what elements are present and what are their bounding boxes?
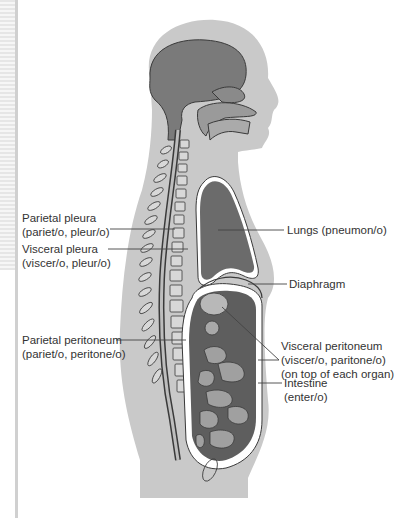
label-line: (viscer/o, pleur/o) (22, 256, 111, 270)
label-lungs: Lungs (pneumon/o) (287, 223, 387, 237)
label-visceral-peritoneum: Visceral peritoneum (viscer/o, paritone/… (281, 339, 394, 381)
label-diaphragm: Diaphragm (289, 277, 345, 291)
label-line: (pariet/o, peritone/o) (22, 347, 126, 361)
label-parietal-peritoneum: Parietal peritoneum (pariet/o, peritone/… (22, 333, 126, 361)
label-intestine: Intestine (enter/o) (284, 376, 327, 404)
organ-round (205, 321, 219, 335)
stomach (200, 293, 228, 315)
label-line: Parietal pleura (22, 211, 110, 225)
label-line: Diaphragm (289, 277, 345, 291)
label-line: (pariet/o, pleur/o) (22, 225, 110, 239)
label-visceral-pleura: Visceral pleura (viscer/o, pleur/o) (22, 242, 111, 270)
label-line: Visceral pleura (22, 242, 111, 256)
label-line: Intestine (284, 376, 327, 390)
label-parietal-pleura: Parietal pleura (pariet/o, pleur/o) (22, 211, 110, 239)
label-line: Parietal peritoneum (22, 333, 126, 347)
label-line: (viscer/o, paritone/o) (281, 353, 394, 367)
label-line: Visceral peritoneum (281, 339, 394, 353)
label-line: (enter/o) (284, 390, 327, 404)
label-line: Lungs (pneumon/o) (287, 223, 387, 237)
